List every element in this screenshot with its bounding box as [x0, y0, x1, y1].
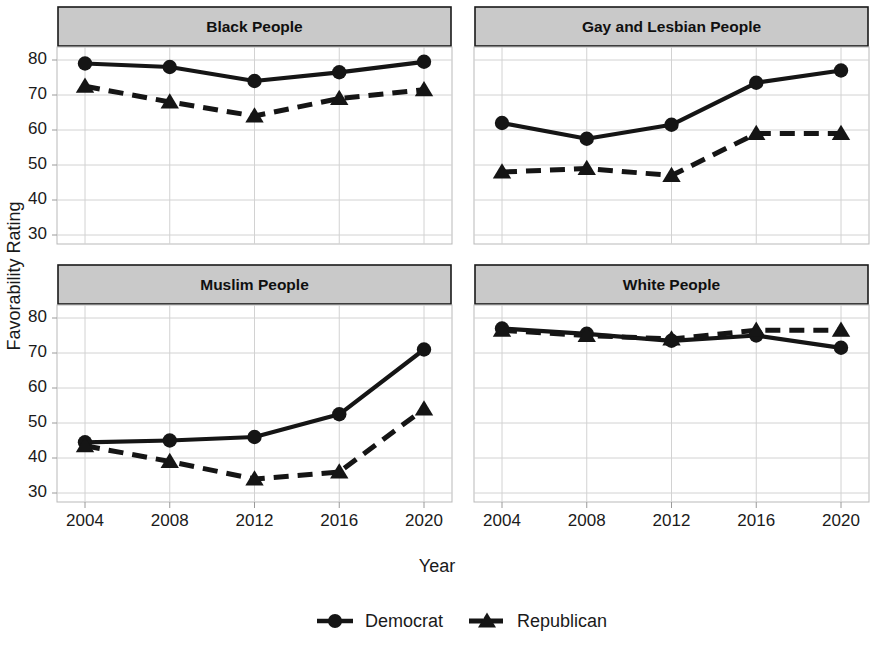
- y-tick-label: 40: [28, 189, 47, 208]
- facet-panel-black-people: Black People: [57, 7, 452, 244]
- y-tick-label: 70: [28, 342, 47, 361]
- legend-marker-circle-icon: [328, 614, 342, 628]
- data-point-republican-2020: [832, 322, 850, 337]
- facet-strip: Gay and Lesbian People: [475, 7, 868, 46]
- data-point-democrat-2004: [495, 116, 509, 130]
- data-point-democrat-2020: [834, 63, 848, 77]
- facet-strip-title: White People: [623, 276, 721, 293]
- y-tick-label: 50: [28, 412, 47, 431]
- facet-strip-title: Muslim People: [200, 276, 309, 293]
- data-point-democrat-2012: [247, 74, 261, 88]
- y-axis: 807060504030807060504030: [28, 49, 57, 501]
- facet-panel-muslim-people: Muslim People: [57, 265, 452, 502]
- data-point-democrat-2008: [580, 132, 594, 146]
- facet-strip: White People: [475, 265, 868, 304]
- facet-panel-gay-and-lesbian-people: Gay and Lesbian People: [474, 7, 869, 244]
- y-tick-label: 30: [28, 224, 47, 243]
- x-tick-label: 2004: [483, 511, 521, 530]
- facet-strip: Black People: [58, 7, 451, 46]
- legend-label-republican: Republican: [517, 611, 607, 631]
- legend-item-republican[interactable]: Republican: [469, 611, 607, 631]
- x-tick-label: 2004: [66, 511, 104, 530]
- data-point-democrat-2016: [332, 65, 346, 79]
- data-point-democrat-2012: [664, 118, 678, 132]
- data-point-democrat-2004: [78, 56, 92, 70]
- facet-strip: Muslim People: [58, 265, 451, 304]
- data-point-democrat-2016: [749, 76, 763, 90]
- chart-canvas: Black PeopleGay and Lesbian PeopleMuslim…: [0, 0, 874, 649]
- data-point-democrat-2008: [163, 433, 177, 447]
- x-tick-label: 2020: [822, 511, 860, 530]
- y-tick-label: 60: [28, 119, 47, 138]
- y-tick-label: 30: [28, 482, 47, 501]
- y-axis-title: Favorability Rating: [4, 201, 24, 350]
- x-tick-label: 2008: [151, 511, 189, 530]
- favorability-rating-facet-chart: Black PeopleGay and Lesbian PeopleMuslim…: [0, 0, 874, 649]
- x-tick-label: 2020: [405, 511, 443, 530]
- x-axis-title: Year: [419, 556, 455, 576]
- legend-label-democrat: Democrat: [365, 611, 443, 631]
- y-tick-label: 60: [28, 377, 47, 396]
- facet-strip-title: Black People: [206, 18, 303, 35]
- y-tick-label: 80: [28, 307, 47, 326]
- legend-item-democrat[interactable]: Democrat: [317, 611, 443, 631]
- y-tick-label: 70: [28, 84, 47, 103]
- data-point-democrat-2016: [332, 407, 346, 421]
- facet-strip-title: Gay and Lesbian People: [582, 18, 762, 35]
- y-tick-label: 80: [28, 49, 47, 68]
- data-point-republican-2020: [415, 400, 433, 415]
- x-tick-label: 2012: [653, 511, 691, 530]
- data-point-democrat-2020: [417, 55, 431, 69]
- x-tick-label: 2012: [236, 511, 274, 530]
- facet-panel-white-people: White People: [474, 265, 869, 502]
- data-point-democrat-2008: [163, 60, 177, 74]
- data-point-democrat-2020: [834, 341, 848, 355]
- data-point-democrat-2020: [417, 342, 431, 356]
- x-tick-label: 2016: [320, 511, 358, 530]
- chart-legend: DemocratRepublican: [317, 611, 607, 631]
- x-tick-label: 2016: [737, 511, 775, 530]
- y-tick-label: 40: [28, 447, 47, 466]
- data-point-democrat-2012: [247, 430, 261, 444]
- x-axis: 2004200820122016202020042008201220162020: [66, 502, 860, 530]
- y-tick-label: 50: [28, 154, 47, 173]
- x-tick-label: 2008: [568, 511, 606, 530]
